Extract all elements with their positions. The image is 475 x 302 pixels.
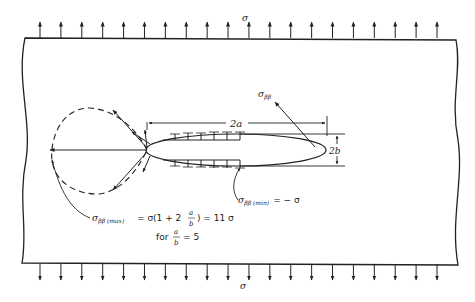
dimension-2a-label: 2a bbox=[229, 118, 242, 129]
tangential-stress-arrow bbox=[275, 102, 315, 147]
bottom-tension-arrows bbox=[40, 264, 437, 280]
dimension-2b-label: 2b bbox=[328, 146, 341, 156]
top-tension-arrows bbox=[40, 22, 437, 38]
compression-stress-ticks bbox=[163, 132, 245, 168]
min-stress-label: σββ (min)= − σ bbox=[238, 195, 300, 207]
svg-text:= σ(1 + 2: = σ(1 + 2 bbox=[137, 213, 181, 223]
elliptical-hole bbox=[146, 134, 326, 166]
stress-vectors bbox=[50, 110, 150, 190]
plate bbox=[22, 38, 460, 265]
svg-text:for: for bbox=[156, 232, 169, 242]
svg-text:) = 11 σ: ) = 11 σ bbox=[197, 213, 234, 223]
ratio-condition: for a b = 5 bbox=[156, 228, 199, 247]
svg-text:= 5: = 5 bbox=[183, 232, 199, 242]
stress-diagram: σ σ 2a 2b bbox=[0, 0, 475, 302]
svg-text:a: a bbox=[174, 228, 178, 236]
svg-text:b: b bbox=[174, 239, 179, 247]
svg-text:a: a bbox=[189, 209, 193, 217]
sigma-top-label: σ bbox=[242, 13, 249, 23]
sigma-bottom-label: σ bbox=[240, 281, 247, 291]
stress-distribution-dashed bbox=[52, 108, 147, 194]
max-stress-leader bbox=[52, 160, 90, 218]
svg-text:σββ (max): σββ (max) bbox=[92, 213, 125, 225]
max-stress-equation: σββ (max) = σ(1 + 2 a b ) = 11 σ bbox=[92, 209, 234, 228]
sigma-bb-label: σββ bbox=[258, 89, 272, 101]
svg-text:b: b bbox=[189, 220, 194, 228]
